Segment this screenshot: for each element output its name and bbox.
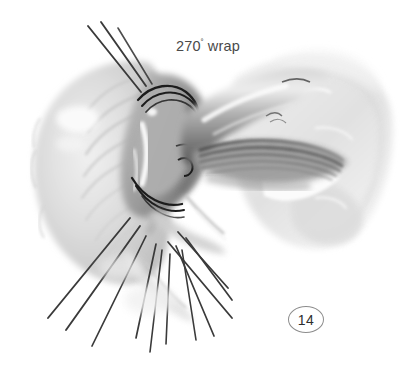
tissue-shadow-blotch bbox=[124, 286, 176, 314]
tissue-shadow-blotch bbox=[98, 256, 142, 280]
degree-symbol-icon: ˚ bbox=[201, 38, 204, 48]
surgical-illustration bbox=[0, 0, 413, 368]
figure-number-badge: 14 bbox=[288, 306, 324, 333]
figure-root: 270˚wrap 14 bbox=[0, 0, 413, 368]
wrap-label-suffix: wrap bbox=[208, 38, 240, 54]
wrap-angle-label: 270˚wrap bbox=[176, 38, 240, 53]
wrap-angle-value: 270 bbox=[176, 38, 201, 54]
figure-number-text: 14 bbox=[298, 313, 314, 327]
